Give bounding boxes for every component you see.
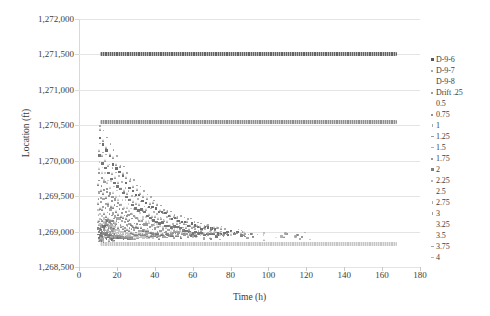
scatter-point bbox=[116, 206, 118, 208]
legend-item[interactable]: D-9-6 bbox=[428, 54, 490, 65]
legend-item[interactable]: 1.25 bbox=[428, 131, 490, 142]
scatter-point bbox=[97, 202, 99, 205]
scatter-point bbox=[139, 192, 141, 195]
scatter-point bbox=[243, 232, 245, 233]
scatter-point bbox=[135, 194, 137, 196]
scatter-point bbox=[119, 208, 121, 210]
legend-item[interactable]: 3 bbox=[428, 208, 490, 219]
scatter-point bbox=[122, 199, 124, 201]
legend-item[interactable]: 3.5 bbox=[428, 230, 490, 241]
scatter-point bbox=[125, 199, 127, 201]
scatter-point bbox=[114, 237, 116, 239]
legend-item[interactable]: D-9-8 bbox=[428, 76, 490, 87]
legend-swatch bbox=[431, 180, 433, 182]
scatter-point bbox=[193, 225, 195, 228]
scatter-point bbox=[125, 176, 127, 179]
legend-swatch bbox=[431, 92, 433, 94]
legend-item[interactable]: 2.5 bbox=[428, 186, 490, 197]
plot-area bbox=[79, 19, 420, 267]
legend-item[interactable]: 1.75 bbox=[428, 153, 490, 164]
scatter-point bbox=[153, 200, 155, 202]
x-tick-label: 120 bbox=[286, 271, 326, 280]
scatter-point bbox=[104, 225, 106, 227]
x-tick-mark bbox=[420, 267, 421, 271]
scatter-point bbox=[244, 233, 246, 235]
scatter-point bbox=[116, 190, 118, 192]
scatter-point bbox=[162, 211, 164, 214]
scatter-point bbox=[100, 228, 102, 230]
legend-item[interactable]: D-9-7 bbox=[428, 65, 490, 76]
scatter-point bbox=[207, 224, 209, 226]
scatter-point bbox=[171, 218, 173, 220]
scatter-point bbox=[114, 198, 116, 200]
scatter-point bbox=[151, 206, 153, 208]
scatter-point bbox=[108, 225, 110, 227]
scatter-point bbox=[114, 233, 115, 234]
scatter-point bbox=[284, 232, 287, 235]
scatter-point bbox=[294, 235, 297, 238]
scatter-point bbox=[166, 220, 168, 223]
scatter-point bbox=[309, 239, 311, 241]
x-tick-mark bbox=[382, 267, 383, 271]
scatter-point bbox=[147, 194, 149, 196]
legend-item[interactable]: 2 bbox=[428, 164, 490, 175]
scatter-point bbox=[111, 172, 113, 175]
scatter-point bbox=[112, 220, 114, 222]
scatter-point bbox=[211, 227, 213, 229]
legend-item[interactable]: 0.75 bbox=[428, 109, 490, 120]
x-tick-label: 0 bbox=[59, 271, 99, 280]
scatter-point bbox=[126, 192, 128, 195]
scatter-point bbox=[120, 187, 122, 190]
legend-item[interactable]: 3.75 bbox=[428, 241, 490, 252]
chart-legend: D-9-6D-9-7D-9-8Drift .250.50.7511.251.51… bbox=[428, 54, 490, 263]
scatter-point bbox=[108, 241, 109, 242]
scatter-point bbox=[131, 195, 133, 197]
scatter-point bbox=[136, 223, 138, 225]
scatter-point bbox=[174, 214, 176, 216]
scatter-point bbox=[103, 178, 105, 181]
scatter-point bbox=[169, 224, 171, 227]
legend-marker-tick-icon bbox=[428, 212, 436, 215]
legend-label: 3 bbox=[436, 210, 440, 218]
legend-item[interactable]: 1.5 bbox=[428, 142, 490, 153]
scatter-point bbox=[102, 143, 104, 145]
scatter-point bbox=[99, 239, 101, 241]
legend-item[interactable]: 2.75 bbox=[428, 197, 490, 208]
y-tick-mark bbox=[75, 90, 79, 91]
scatter-point bbox=[132, 185, 134, 188]
scatter-point bbox=[113, 149, 115, 151]
scatter-point bbox=[159, 209, 161, 212]
x-tick-mark bbox=[193, 267, 194, 271]
legend-label: 2.75 bbox=[436, 199, 450, 207]
scatter-point bbox=[104, 159, 106, 162]
legend-item[interactable]: 0.5 bbox=[428, 98, 490, 109]
scatter-point bbox=[106, 181, 108, 184]
scatter-point bbox=[98, 231, 100, 233]
scatter-point bbox=[126, 172, 128, 174]
scatter-point bbox=[112, 206, 114, 209]
legend-marker-tick-icon bbox=[428, 201, 436, 204]
scatter-point bbox=[105, 146, 107, 149]
scatter-point bbox=[118, 171, 120, 173]
scatter-point bbox=[119, 195, 121, 197]
legend-item[interactable]: 2.25 bbox=[428, 175, 490, 186]
legend-item[interactable]: Drift .25 bbox=[428, 87, 490, 98]
scatter-point bbox=[155, 221, 157, 223]
scatter-point bbox=[145, 202, 147, 204]
legend-marker-dot-icon bbox=[428, 158, 436, 160]
legend-item[interactable]: 4 bbox=[428, 252, 490, 263]
scatter-point bbox=[155, 207, 157, 209]
scatter-point bbox=[120, 165, 122, 167]
legend-item[interactable]: 3.25 bbox=[428, 219, 490, 230]
scatter-point bbox=[112, 163, 114, 165]
scatter-point bbox=[172, 223, 174, 225]
legend-label: 1.5 bbox=[436, 144, 446, 152]
scatter-point-cluster bbox=[79, 19, 420, 267]
scatter-point bbox=[132, 190, 134, 192]
scatter-point bbox=[301, 236, 303, 238]
legend-item[interactable]: 1 bbox=[428, 120, 490, 131]
legend-swatch bbox=[431, 114, 433, 116]
scatter-point bbox=[179, 227, 181, 230]
scatter-point bbox=[163, 209, 165, 211]
legend-label: 0.5 bbox=[436, 100, 446, 108]
